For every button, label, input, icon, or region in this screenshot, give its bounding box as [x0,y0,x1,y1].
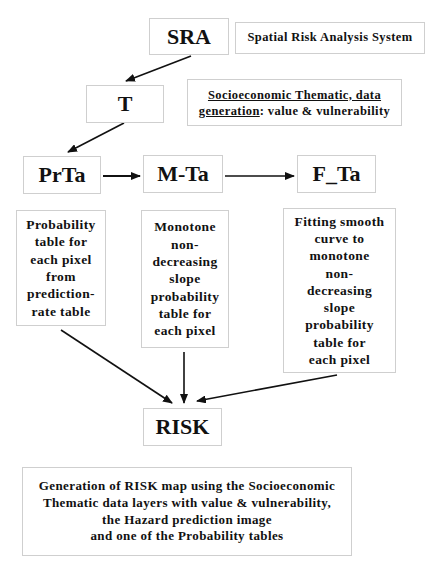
fta-desc-line: each pixel [309,351,370,368]
node-risk: RISK [143,408,222,446]
t-desc-line2-underlined: generation [199,104,260,118]
mta-desc-line: table for [159,305,212,322]
fta-desc-line: Fitting smooth [295,213,385,230]
node-mta: M-Ta [143,155,223,193]
node-fta: F_Ta [297,155,376,193]
fta-desc-line: probability [305,316,374,333]
fta-desc-line: decreasing [307,282,372,299]
prta-desc-line: table for [35,233,88,250]
fta-desc-line: monotone [309,247,369,264]
arrow-t-to-prta [68,123,124,152]
risk-desc-line: the Hazard prediction image [102,512,272,529]
label-prta-desc: Probability table for each pixel from pr… [16,210,106,326]
fta-desc-line: non- [326,265,354,282]
mta-desc-line: Monotone [154,218,216,235]
label-risk-desc: Generation of RISK map using the Socioec… [22,467,352,556]
mta-desc-line: probability [151,288,220,305]
label-fta-desc: Fitting smooth curve to monotone non- de… [283,208,396,373]
label-t-desc: Socioeconomic Thematic, data generation:… [187,79,402,126]
label-mta-desc: Monotone non- decreasing slope probabili… [141,210,229,348]
prta-desc-line: from [46,268,76,285]
t-desc-line1: Socioeconomic Thematic, data [208,88,381,102]
risk-desc-line: Generation of RISK map using the Socioec… [39,478,335,495]
mta-desc-line: slope [169,270,200,287]
prta-desc-line: prediction- [27,285,95,302]
node-sra: SRA [149,18,229,55]
prta-desc-line: Probability [26,216,95,233]
label-sra-desc: Spatial Risk Analysis System [235,22,425,54]
fta-desc-line: slope [324,299,355,316]
prta-desc-line: each pixel [30,251,91,268]
arrow-fta-to-risk [197,375,337,401]
risk-desc-line: Thematic data layers with value & vulner… [43,495,331,512]
t-desc-line2-rest: : value & vulnerability [260,104,390,118]
fta-desc-line: table for [313,334,366,351]
fta-desc-line: curve to [314,230,364,247]
arrow-sra-to-t [126,56,191,81]
node-prta: PrTa [23,156,101,194]
mta-desc-line: decreasing [152,253,217,270]
risk-desc-line: and one of the Probability tables [90,528,283,545]
prta-desc-line: rate table [31,303,90,320]
node-t: T [86,85,164,123]
mta-desc-line: non- [171,236,199,253]
mta-desc-line: each pixel [154,322,215,339]
